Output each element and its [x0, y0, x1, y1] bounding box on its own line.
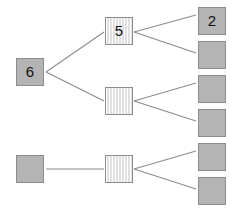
- node-n-b1[interactable]: [16, 155, 44, 183]
- node-n-r2[interactable]: [198, 41, 226, 69]
- node-n-6[interactable]: 6: [16, 58, 44, 86]
- edge-n-6-to-n-h1: [46, 72, 104, 101]
- node-n-2[interactable]: 2: [198, 7, 226, 35]
- node-n-5[interactable]: 5: [105, 17, 133, 45]
- edge-n-6-to-n-5: [46, 32, 104, 72]
- edge-n-b2-to-n-r5: [134, 151, 196, 169]
- node-n-r6[interactable]: [198, 177, 226, 205]
- diagram-canvas: 652: [0, 0, 242, 216]
- node-n-r3[interactable]: [198, 75, 226, 103]
- node-n-b2[interactable]: [105, 155, 133, 183]
- edge-n-5-to-n-2: [134, 15, 196, 32]
- node-n-h1[interactable]: [105, 87, 133, 115]
- node-label: 5: [115, 23, 123, 38]
- edge-n-5-to-n-r2: [134, 32, 196, 53]
- edge-n-h1-to-n-r3: [134, 83, 196, 101]
- node-n-r4[interactable]: [198, 109, 226, 137]
- node-label: 6: [26, 64, 34, 79]
- edge-n-b2-to-n-r6: [134, 169, 196, 189]
- edge-n-h1-to-n-r4: [134, 101, 196, 121]
- node-label: 2: [208, 13, 216, 28]
- node-n-r5[interactable]: [198, 143, 226, 171]
